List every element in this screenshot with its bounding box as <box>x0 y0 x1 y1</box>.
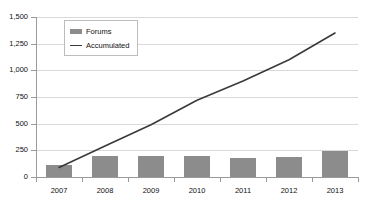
y-axis-label-750: 750 <box>0 93 28 101</box>
x-axis-label-2009: 2009 <box>128 186 174 195</box>
x-axis-label-2010: 2010 <box>174 186 220 195</box>
x-tick-1 <box>82 177 83 182</box>
legend-item-accumulated: Accumulated <box>70 40 129 51</box>
x-axis-label-2007: 2007 <box>36 186 82 195</box>
y-axis-label-1250: 1,250 <box>0 40 28 48</box>
x-tick-0 <box>36 177 37 182</box>
x-axis-label-2012: 2012 <box>266 186 312 195</box>
legend-label-forums: Forums <box>86 27 111 36</box>
x-tick-5 <box>266 177 267 182</box>
x-axis-line <box>36 177 358 178</box>
y-axis-label-0: 0 <box>0 173 28 181</box>
x-tick-6 <box>312 177 313 182</box>
y-axis-label-1500: 1,500 <box>0 13 28 21</box>
x-tick-7 <box>358 177 359 182</box>
legend-item-forums: Forums <box>70 26 111 37</box>
x-axis-label-2011: 2011 <box>220 186 266 195</box>
legend-bar-swatch-icon <box>70 29 82 34</box>
x-tick-3 <box>174 177 175 182</box>
chart-container: 1,500 1,250 1,000 750 500 250 0 2007 200… <box>0 0 365 204</box>
legend-line-swatch-icon <box>70 45 82 46</box>
x-tick-4 <box>220 177 221 182</box>
y-axis-label-250: 250 <box>0 146 28 154</box>
x-axis-label-2013: 2013 <box>312 186 358 195</box>
legend-label-accumulated: Accumulated <box>86 41 129 50</box>
x-axis-label-2008: 2008 <box>82 186 128 195</box>
y-axis-label-500: 500 <box>0 120 28 128</box>
chart-legend: Forums Accumulated <box>64 20 138 56</box>
y-axis-label-1000: 1,000 <box>0 66 28 74</box>
x-tick-2 <box>128 177 129 182</box>
